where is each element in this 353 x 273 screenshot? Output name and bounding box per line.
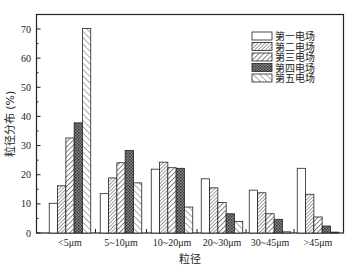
bar [49,203,57,233]
bar [66,138,74,233]
bar [82,28,90,233]
bar [297,168,305,233]
bar [201,179,209,233]
x-tick-label: 30~45μm [251,237,290,248]
bar [160,162,168,233]
y-tick-label: 20 [21,169,31,180]
bar [168,168,176,233]
y-tick-label: 60 [21,53,31,64]
y-tick-label: 10 [21,198,31,209]
bar-chart: 010203040506070 <5μm5~10μm10~20μm20~30μm… [0,0,353,273]
bar [117,163,125,233]
legend-label: 第二电场 [275,41,315,53]
y-tick-label: 70 [21,24,31,35]
legend-swatch [252,53,272,61]
bar [226,214,234,233]
bar [151,169,159,233]
bar [184,207,192,233]
bar [314,217,322,233]
y-tick-label: 40 [21,111,31,122]
legend-label: 第三电场 [275,51,315,63]
legend-swatch [252,43,272,51]
bar [218,202,226,233]
y-tick-label: 50 [21,82,31,93]
bar [100,194,108,233]
y-axis: 010203040506070 [21,24,41,239]
x-tick-label: >45μm [304,237,333,248]
bar [258,193,266,233]
x-tick-label: 10~20μm [153,237,192,248]
x-axis: <5μm5~10μm10~20μm20~30μm30~45μm>45μm [58,229,333,248]
bar [282,232,290,233]
y-tick-label: 0 [26,228,31,239]
x-tick-label: <5μm [58,237,82,248]
bar [109,178,117,233]
bar [274,219,282,233]
bar [133,183,141,233]
y-tick-label: 30 [21,140,31,151]
bar [266,214,274,233]
bar [249,190,257,233]
legend: 第一电场第二电场第三电场第四电场第五电场 [252,30,315,84]
bar [74,123,82,233]
legend-label: 第五电场 [275,72,315,84]
legend-swatch [252,32,272,40]
bar [58,186,66,233]
bar [322,226,330,233]
bar [306,194,314,233]
legend-label: 第一电场 [275,30,315,42]
y-axis-title: 粒径分布 (%) [3,91,17,158]
legend-label: 第四电场 [275,62,315,74]
x-axis-title: 粒径 [179,252,201,266]
legend-swatch [252,74,272,82]
bar [330,232,338,233]
bar [210,188,218,233]
bar [234,221,242,233]
bar [125,151,133,233]
x-tick-label: 20~30μm [203,237,242,248]
x-tick-label: 5~10μm [104,237,138,248]
legend-swatch [252,64,272,72]
bar [176,168,184,233]
